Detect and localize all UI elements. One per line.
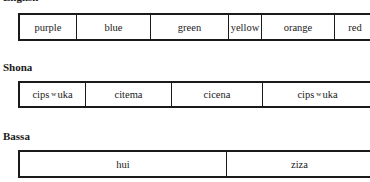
- cell-text-pre: cips: [297, 89, 314, 100]
- cell-text-post: uka: [322, 89, 337, 100]
- color-cell: blue: [77, 15, 151, 39]
- color-cell: green: [151, 15, 229, 39]
- cell-text-post: uka: [57, 89, 72, 100]
- color-cell: cicena: [172, 83, 263, 106]
- color-cell: yellow: [229, 15, 262, 39]
- color-cell: cipswuka: [263, 83, 370, 106]
- color-cell: ziza: [227, 152, 370, 176]
- cell-text-sup: w: [316, 90, 321, 98]
- cell-text-sup: w: [51, 90, 56, 98]
- color-row-shona: cipswuka citema cicena cipswuka: [18, 81, 370, 108]
- section-label-english: English: [3, 0, 38, 3]
- color-cell: cipswuka: [20, 83, 86, 106]
- color-row-bassa: hui ziza: [18, 150, 370, 178]
- section-label-shona: Shona: [3, 61, 32, 73]
- color-row-english: purple blue green yellow orange red: [18, 13, 370, 41]
- cell-text-pre: cips: [32, 89, 49, 100]
- color-cell: red: [335, 15, 370, 39]
- color-cell: citema: [86, 83, 172, 106]
- color-cell: orange: [262, 15, 335, 39]
- color-cell: hui: [20, 152, 227, 176]
- section-label-bassa: Bassa: [3, 130, 30, 142]
- color-cell: purple: [20, 15, 77, 39]
